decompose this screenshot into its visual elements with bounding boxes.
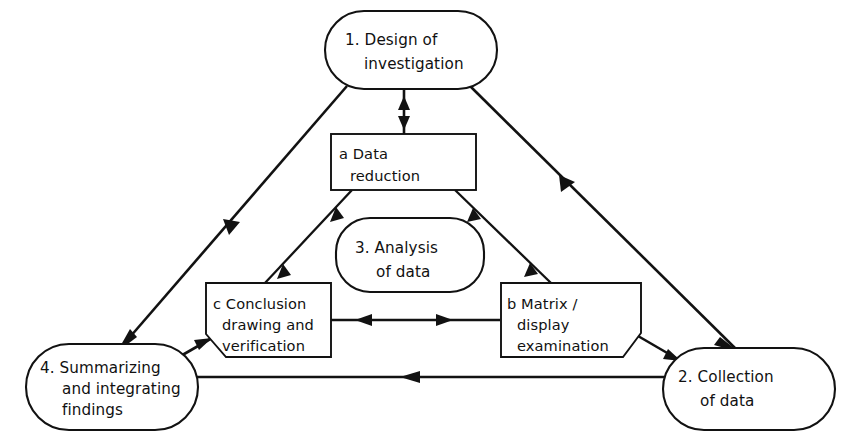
node-matrix-display-examination[interactable]: b Matrix / display examination [501,283,641,357]
diagram-svg: 1. Design of investigation a Data reduct… [0,0,852,435]
node-collection-of-data[interactable]: 2. Collection of data [663,348,835,430]
node-conclusion-drawing-and-verification[interactable]: c Conclusion drawing and verification [206,283,331,357]
edge-collection-to-summarizing [182,371,698,383]
node-design-of-investigation[interactable]: 1. Design of investigation [325,11,497,89]
node-data-reduction[interactable]: a Data reduction [331,134,476,190]
node-conclusion-label-line-1: c Conclusion [213,295,306,312]
node-data-reduction-label-line-2: reduction [350,167,420,184]
node-design-label-line-1: 1. Design of [345,31,438,49]
node-collection-label-line-1: 2. Collection [678,368,774,386]
node-data-reduction-label-line-1: a Data [339,145,388,162]
node-summarizing-label-line-2: and integrating [62,380,181,398]
edge-matrix-display-to-collection [638,336,681,361]
edge-design-to-data-reduction [398,88,410,134]
node-matrix-label-line-3: examination [517,337,609,354]
node-analysis-of-data[interactable]: 3. Analysis of data [336,218,484,292]
node-design-label-line-2: investigation [364,55,464,73]
node-conclusion-label-line-3: verification [222,337,305,354]
node-collection-label-line-2: of data [700,392,754,410]
node-summarizing-and-integrating-findings[interactable]: 4. Summarizing and integrating findings [26,344,198,430]
node-matrix-label-line-2: display [517,316,570,333]
node-analysis-label-line-1: 3. Analysis [355,239,438,257]
node-summarizing-label-line-3: findings [62,401,123,419]
diagram-canvas: 1. Design of investigation a Data reduct… [0,0,852,435]
node-analysis-label-line-2: of data [376,263,430,281]
node-matrix-label-line-1: b Matrix / [507,295,577,312]
edge-conclusion-to-matrix-display [330,314,500,326]
node-conclusion-label-line-2: drawing and [222,316,314,333]
node-summarizing-label-line-1: 4. Summarizing [40,359,161,377]
